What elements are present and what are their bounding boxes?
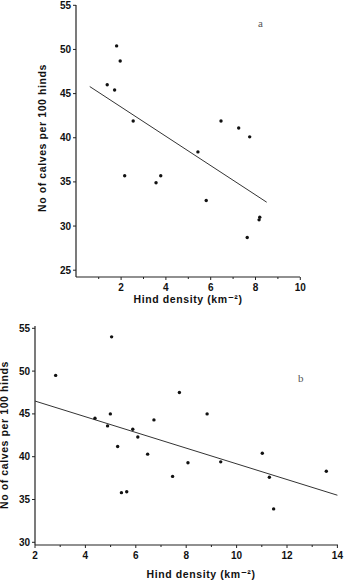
data-point — [113, 88, 116, 91]
x-tick-label: 4 — [163, 282, 169, 293]
data-point — [159, 174, 162, 177]
x-tick-label: 8 — [253, 282, 259, 293]
data-point — [272, 507, 275, 510]
y-tick-label: 45 — [60, 88, 72, 99]
x-tick-label: 10 — [231, 550, 243, 561]
data-point — [261, 452, 264, 455]
data-point — [178, 391, 181, 394]
y-axis-title: No of calves per 100 hinds — [0, 361, 10, 509]
y-tick-label: 50 — [60, 44, 72, 55]
panel-label: a — [258, 17, 263, 29]
y-tick-label: 30 — [60, 221, 72, 232]
data-point — [325, 470, 328, 473]
x-tick-label: 4 — [83, 550, 89, 561]
y-axis-title: No of calves per 100 hinds — [36, 64, 48, 212]
data-point — [154, 181, 157, 184]
data-point — [205, 199, 208, 202]
data-point — [119, 59, 122, 62]
x-tick-label: 8 — [183, 550, 189, 561]
data-point — [186, 461, 189, 464]
x-axis-title: Hind density (km⁻²) — [147, 568, 256, 580]
y-tick-label: 45 — [19, 408, 31, 419]
y-tick-label: 50 — [19, 366, 31, 377]
regression-line — [35, 401, 337, 495]
data-point — [268, 476, 271, 479]
data-point — [93, 416, 96, 419]
data-point — [146, 452, 149, 455]
data-point — [152, 418, 155, 421]
x-tick-label: 6 — [133, 550, 139, 561]
data-point — [109, 412, 112, 415]
data-point — [123, 174, 126, 177]
y-tick-label: 25 — [60, 265, 72, 276]
data-point — [219, 119, 222, 122]
data-point — [110, 335, 113, 338]
data-point — [125, 490, 128, 493]
y-tick-label: 40 — [60, 132, 72, 143]
data-point — [106, 424, 109, 427]
data-point — [171, 475, 174, 478]
data-point — [131, 428, 134, 431]
data-point — [106, 83, 109, 86]
y-tick-label: 55 — [60, 0, 72, 11]
x-tick-label: 2 — [118, 282, 124, 293]
x-tick-label: 12 — [281, 550, 293, 561]
data-point — [205, 412, 208, 415]
figure: 25303540455055246810Hind density (km⁻²)N… — [0, 0, 346, 582]
data-point — [116, 445, 119, 448]
y-tick-label: 40 — [19, 451, 31, 462]
x-axis-title: Hind density (km⁻²) — [134, 293, 243, 305]
data-point — [248, 135, 251, 138]
data-point — [258, 216, 261, 219]
scatter-panel-b: 3035404550552468101214Hind density (km⁻²… — [0, 323, 343, 580]
x-tick-label: 10 — [295, 282, 307, 293]
data-point — [219, 460, 222, 463]
y-tick-label: 30 — [19, 537, 31, 548]
y-tick-label: 35 — [60, 176, 72, 187]
data-point — [246, 236, 249, 239]
scatter-panel-a: 25303540455055246810Hind density (km⁻²)N… — [36, 0, 306, 305]
y-tick-label: 55 — [19, 323, 31, 334]
x-tick-label: 6 — [208, 282, 214, 293]
x-tick-label: 2 — [32, 550, 38, 561]
x-tick-label: 14 — [332, 550, 344, 561]
data-point — [196, 150, 199, 153]
data-point — [120, 491, 123, 494]
data-point — [136, 435, 139, 438]
data-point — [237, 126, 240, 129]
data-point — [131, 119, 134, 122]
y-tick-label: 35 — [19, 494, 31, 505]
data-point — [115, 44, 118, 47]
data-point — [54, 374, 57, 377]
panel-label: b — [298, 372, 304, 384]
regression-line — [90, 87, 267, 203]
